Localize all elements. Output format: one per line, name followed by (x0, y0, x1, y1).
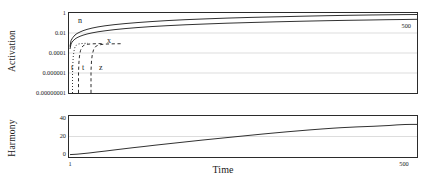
series-line-z (91, 44, 122, 93)
series-line-n (70, 15, 417, 47)
y-tick-label: 20 (60, 133, 66, 139)
curve-label-t1: t (71, 64, 73, 72)
bottom-panel-x-axis-title: Time (193, 164, 253, 175)
bottom-panel-y-ticks: 40 20 0 (0, 0, 66, 179)
bottom-panel-x-tick-1: 1 (68, 161, 71, 167)
activation-plot-panel: n x t t z 500 (68, 12, 418, 94)
series-line-harmony (70, 124, 417, 154)
activation-plot-svg (69, 13, 417, 93)
harmony-plot-svg (69, 116, 417, 157)
bottom-panel-x-tick-500: 500 (399, 161, 408, 167)
top-panel-x-tick-500: 500 (402, 23, 411, 29)
curve-label-x: x (107, 37, 111, 45)
curve-label-n: n (78, 17, 82, 25)
y-tick-label: 0 (63, 151, 66, 157)
curve-label-t2: t (82, 64, 84, 72)
harmony-plot-panel (68, 115, 418, 158)
y-tick-label: 40 (60, 115, 66, 121)
figure-container: Activation 1 0.01 0.0001 0.000001 0.0000… (0, 0, 429, 179)
curve-label-z: z (99, 64, 103, 72)
gridlines (69, 33, 417, 73)
